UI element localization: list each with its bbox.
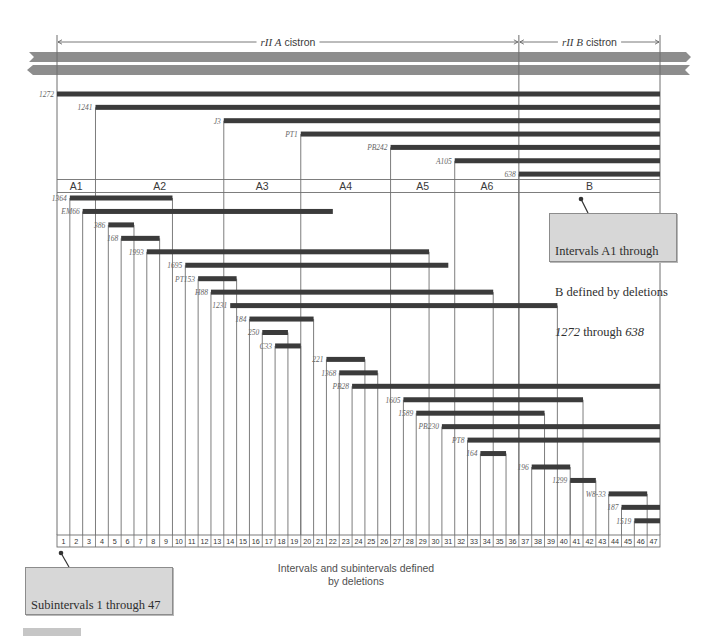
callout-text: B defined by deletions	[555, 285, 668, 299]
dna-strand-top	[29, 52, 691, 62]
subinterval-number: 32	[457, 537, 465, 546]
subinterval-number: 10	[175, 537, 183, 546]
subinterval-number: 15	[239, 537, 247, 546]
subinterval-deletion-bar	[622, 505, 660, 510]
subinterval-deletion-bar	[249, 317, 313, 322]
subinterval-deletion-bar	[532, 465, 570, 470]
figure-caption: Intervals and subintervals defined by de…	[246, 562, 466, 588]
subinterval-number: 4	[100, 537, 104, 546]
subinterval-number: 5	[113, 537, 117, 546]
subinterval-deletion-bar	[634, 518, 660, 523]
subinterval-number: 36	[508, 537, 516, 546]
callout-intervals-dot	[579, 197, 584, 202]
deletion-label: 1241	[77, 103, 92, 112]
callout-line: B defined by deletions	[555, 286, 676, 300]
subinterval-deletion-bar	[480, 451, 506, 456]
subinterval-number: 14	[226, 537, 234, 546]
callout-text: through	[580, 325, 625, 339]
subinterval-number: 37	[521, 537, 529, 546]
subinterval-number: 39	[547, 537, 555, 546]
callout-line: Intervals A1 through	[555, 245, 676, 259]
dna-strand-bottom	[27, 65, 690, 75]
subinterval-number: 8	[151, 537, 155, 546]
deletion-label: A105	[435, 157, 452, 166]
callout-line: Subintervals 1 through 47	[31, 599, 172, 613]
deletion-label: 1519	[616, 517, 631, 526]
subinterval-number: 47	[650, 537, 658, 546]
subinterval-number: 45	[624, 537, 632, 546]
callout-text: Intervals A1 through	[555, 244, 658, 258]
subinterval-deletion-bar	[468, 438, 660, 443]
subinterval-number: 31	[444, 537, 452, 546]
callout-intervals-pointer	[581, 199, 588, 213]
callout-deletion-name: 638	[625, 325, 644, 339]
subinterval-number: 19	[290, 537, 298, 546]
subinterval-deletion-bar	[147, 249, 429, 254]
deletion-label: W8-33	[586, 490, 606, 499]
callout-deletion-name: 1272	[555, 325, 580, 339]
callout-text: Subintervals 1 through 47	[31, 598, 161, 612]
subinterval-number: 33	[470, 537, 478, 546]
deletion-label: 184	[235, 315, 247, 324]
deletion-label: C33	[260, 342, 273, 351]
interval-deletion-bar	[95, 105, 660, 110]
cistron-label: rII Acistron	[261, 36, 316, 48]
subinterval-deletion-bar	[570, 478, 596, 483]
subinterval-number: 7	[138, 537, 142, 546]
subinterval-deletion-bar	[442, 424, 660, 429]
interval-deletion-bar	[301, 132, 660, 137]
subinterval-number: 38	[534, 537, 542, 546]
cistron-name: rII A	[261, 36, 282, 48]
interval-label: A5	[416, 180, 429, 192]
subinterval-number: 24	[355, 537, 363, 546]
interval-label: A6	[480, 180, 493, 192]
subinterval-number: 43	[598, 537, 606, 546]
subinterval-number: 13	[213, 537, 221, 546]
subinterval-number: 41	[573, 537, 581, 546]
deletion-label: PB28	[331, 382, 349, 391]
subinterval-deletion-bar	[416, 411, 544, 416]
deletion-label: PT153	[174, 275, 195, 284]
subinterval-number: 26	[380, 537, 388, 546]
interval-deletion-bar	[455, 158, 660, 163]
subinterval-number: 42	[585, 537, 593, 546]
deletion-label: PT8	[451, 436, 465, 445]
subinterval-deletion-bar	[108, 222, 134, 227]
subinterval-number: 12	[201, 537, 209, 546]
deletion-label: PB242	[366, 143, 388, 152]
interval-label: A3	[256, 180, 269, 192]
callout-subintervals-dot	[59, 551, 64, 556]
subinterval-deletion-bar	[352, 384, 660, 389]
subinterval-number: 16	[252, 537, 260, 546]
interval-deletion-bar	[519, 172, 660, 177]
subinterval-number: 3	[87, 537, 91, 546]
deletion-label: 187	[607, 503, 619, 512]
subinterval-deletion-bar	[326, 357, 364, 362]
interval-label: B	[586, 180, 593, 192]
deletion-label: 1231	[212, 301, 227, 310]
deletion-label: 1993	[129, 248, 144, 257]
cistron-header: rII AcistronrII Bcistron	[58, 36, 659, 48]
cistron-suffix: cistron	[586, 36, 617, 48]
subinterval-number-row: 1234567891011121314151617181920212223242…	[57, 535, 660, 547]
interval-label: A2	[153, 180, 166, 192]
subinterval-deletion-bar	[70, 196, 173, 201]
subinterval-number: 20	[303, 537, 311, 546]
subinterval-number: 23	[342, 537, 350, 546]
dna-bands	[27, 52, 691, 75]
callout-subintervals: Subintervals 1 through 47 defined by del…	[25, 567, 173, 615]
deletion-label: 1368	[321, 369, 336, 378]
subinterval-deletion-bar	[339, 370, 377, 375]
interval-label: A1	[70, 180, 83, 192]
deletion-label: EM66	[60, 207, 80, 216]
subinterval-number: 21	[316, 537, 324, 546]
deletion-label: H88	[194, 288, 208, 297]
subinterval-number: 17	[265, 537, 273, 546]
subinterval-deletion-bar	[121, 236, 159, 241]
deletion-label: 1695	[167, 261, 182, 270]
interval-row: A1A2A3A4A5A6B	[57, 180, 660, 193]
deletion-label: PB230	[417, 422, 439, 431]
subinterval-number: 29	[419, 537, 427, 546]
subinterval-deletion-bar	[185, 263, 448, 268]
subinterval-number: 2	[74, 537, 78, 546]
